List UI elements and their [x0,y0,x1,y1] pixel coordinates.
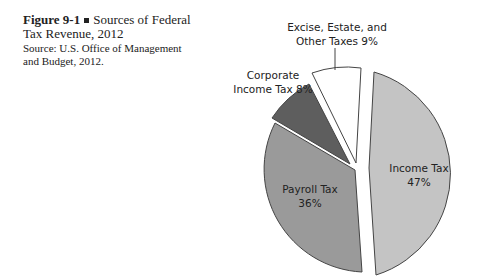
corporate-label-line2: Income Tax 8% [232,82,314,96]
excise-estate-other-label: Excise, Estate, and Other Taxes 9% [282,20,392,48]
income-tax-label: Income Tax [389,162,448,174]
corporate-label-line1: Corporate [232,68,314,82]
excise-label-line1: Excise, Estate, and [282,20,392,34]
corporate-income-tax-label: Corporate Income Tax 8% [232,68,314,96]
payroll-tax-label: Payroll Tax [282,183,338,195]
payroll-tax-pct: 36% [298,197,321,209]
pie-chart: Income Tax 47% Payroll Tax 36% [0,0,483,280]
excise-label-line2: Other Taxes 9% [282,34,392,48]
income-tax-pct: 47% [407,176,430,188]
